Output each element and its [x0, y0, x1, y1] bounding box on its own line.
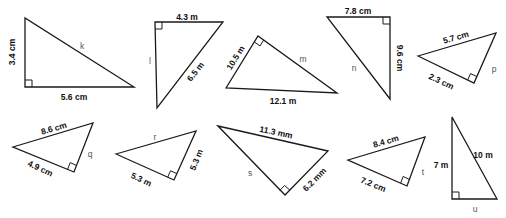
- right-angle-marker: [383, 17, 390, 24]
- triangle-outline: [25, 18, 134, 87]
- right-angle-marker: [254, 40, 263, 46]
- triangle-outline: [327, 17, 390, 99]
- triangle-outline: [226, 36, 337, 93]
- unknown-side-label: m: [299, 54, 306, 64]
- side-length-label: 4.9 cm: [26, 158, 55, 178]
- unknown-side-label: u: [473, 204, 478, 214]
- unknown-side-label: r: [154, 132, 157, 142]
- side-length-label: 12.1 m: [270, 96, 297, 106]
- side-length-label: 5.3 m: [188, 147, 206, 171]
- side-length-label: 5.6 cm: [61, 92, 88, 102]
- right-angle-marker: [25, 80, 32, 87]
- side-length-label: 7.2 cm: [359, 175, 388, 194]
- side-length-label: 9.6 cm: [395, 45, 405, 72]
- triangle-outline: [155, 22, 223, 108]
- unknown-side-label: p: [492, 64, 497, 74]
- unknown-side-label: k: [80, 41, 85, 51]
- side-length-label: 10.5 m: [224, 43, 247, 71]
- side-length-label: 7.8 cm: [345, 6, 372, 16]
- triangle-n: 7.8 cm9.6 cmn: [327, 6, 405, 99]
- side-length-label: 5.7 cm: [442, 29, 471, 46]
- side-length-label: 6.5 m: [185, 60, 207, 84]
- right-angle-marker: [155, 22, 162, 29]
- unknown-side-label: t: [422, 167, 425, 177]
- side-length-label: 6.2 mm: [301, 165, 329, 193]
- side-length-label: 7 m: [434, 160, 449, 170]
- triangle-u: 7 m10 mu: [434, 117, 497, 214]
- unknown-side-label: q: [88, 149, 93, 159]
- side-length-label: 10 m: [473, 150, 493, 160]
- triangle-s: 11.3 mm6.2 mms: [218, 124, 329, 195]
- triangle-l: 4.3 m6.5 ml: [149, 12, 223, 108]
- triangle-m: 10.5 m12.1 mm: [224, 36, 337, 106]
- triangle-r: 5.3 m5.3 mr: [116, 131, 205, 189]
- right-angle-marker: [452, 192, 459, 199]
- side-length-label: 4.3 m: [176, 12, 198, 22]
- triangle-q: 8.6 cm4.9 cmq: [13, 120, 93, 179]
- side-length-label: 11.3 mm: [259, 124, 294, 141]
- triangle-figures: 3.4 cm5.6 cmk4.3 m6.5 ml10.5 m12.1 mm7.8…: [0, 0, 506, 218]
- unknown-side-label: l: [149, 56, 151, 66]
- unknown-side-label: n: [352, 63, 357, 73]
- side-length-label: 3.4 cm: [7, 38, 17, 65]
- triangle-k: 3.4 cm5.6 cmk: [7, 18, 134, 102]
- side-length-label: 8.4 cm: [372, 133, 401, 150]
- unknown-side-label: s: [248, 168, 252, 178]
- worksheet-canvas: 3.4 cm5.6 cmk4.3 m6.5 ml10.5 m12.1 mm7.8…: [0, 0, 506, 218]
- right-angle-marker: [280, 186, 290, 191]
- side-length-label: 2.3 cm: [427, 71, 456, 91]
- side-length-label: 5.3 m: [129, 170, 153, 188]
- triangle-t: 8.4 cm7.2 cmt: [348, 133, 425, 194]
- triangle-p: 5.7 cm2.3 cmp: [418, 29, 497, 92]
